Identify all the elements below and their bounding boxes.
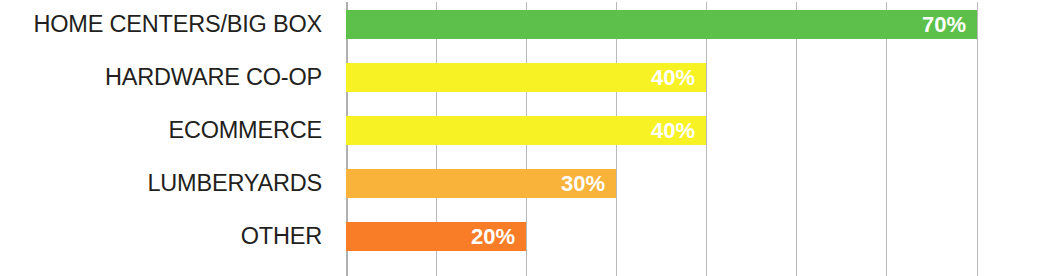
category-label-other: OTHER xyxy=(0,225,322,249)
category-label-hardware-co-op: HARDWARE CO-OP xyxy=(0,66,322,90)
gridline-60 xyxy=(886,2,887,276)
plot-area: 70% 40% 40% 30% 20% xyxy=(346,0,1060,276)
bar-hardware-co-op: 40% xyxy=(346,63,706,92)
bar-value-lumberyards: 30% xyxy=(561,173,605,195)
bar-ecommerce: 40% xyxy=(346,116,706,145)
horizontal-bar-chart: HOME CENTERS/BIG BOX HARDWARE CO-OP ECOM… xyxy=(0,0,1060,276)
bar-value-ecommerce: 40% xyxy=(651,120,695,142)
bar-other: 20% xyxy=(346,222,526,251)
gridline-50 xyxy=(796,2,797,276)
category-label-home-centers-big-box: HOME CENTERS/BIG BOX xyxy=(0,13,322,37)
bar-value-home-centers-big-box: 70% xyxy=(922,14,966,36)
gridline-40 xyxy=(706,2,707,276)
bar-home-centers-big-box: 70% xyxy=(346,10,977,39)
bar-value-other: 20% xyxy=(471,226,515,248)
category-label-lumberyards: LUMBERYARDS xyxy=(0,172,322,196)
gridline-70 xyxy=(977,2,978,276)
bar-lumberyards: 30% xyxy=(346,169,616,198)
category-label-ecommerce: ECOMMERCE xyxy=(0,119,322,143)
bar-value-hardware-co-op: 40% xyxy=(651,67,695,89)
category-axis-labels: HOME CENTERS/BIG BOX HARDWARE CO-OP ECOM… xyxy=(0,0,322,276)
